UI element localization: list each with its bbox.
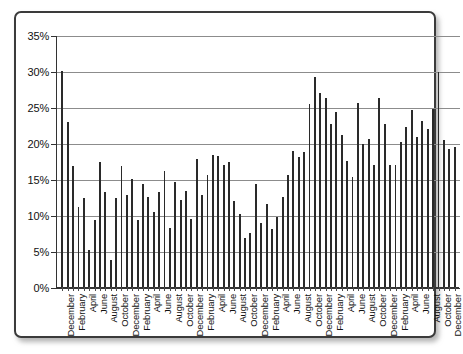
x-axis-tick bbox=[229, 287, 230, 291]
bar bbox=[298, 157, 300, 287]
x-axis-label: April bbox=[409, 294, 420, 312]
x-axis-tick bbox=[417, 287, 418, 291]
x-axis-label: December bbox=[65, 294, 76, 336]
x-axis-tick bbox=[363, 287, 364, 291]
x-axis-tick bbox=[154, 287, 155, 291]
bar bbox=[400, 142, 402, 287]
bar bbox=[190, 219, 192, 287]
x-axis-tick bbox=[396, 287, 397, 291]
x-axis-tick bbox=[315, 287, 316, 291]
x-axis-tick bbox=[433, 287, 434, 291]
x-axis-label: August bbox=[108, 294, 119, 323]
bar bbox=[405, 127, 407, 287]
bar bbox=[362, 144, 364, 287]
bar bbox=[110, 260, 112, 287]
bar bbox=[411, 110, 413, 287]
bar bbox=[389, 165, 391, 287]
bar bbox=[432, 109, 434, 287]
x-axis-label: June bbox=[98, 294, 109, 314]
x-axis-tick bbox=[342, 287, 343, 291]
x-axis-tick bbox=[240, 287, 241, 291]
x-axis-tick bbox=[175, 287, 176, 291]
x-axis-tick bbox=[207, 287, 208, 291]
x-axis-tick bbox=[304, 287, 305, 291]
x-axis-label: October bbox=[377, 294, 388, 327]
y-axis-label: 30% bbox=[28, 66, 49, 78]
x-axis-tick bbox=[170, 287, 171, 291]
x-axis-tick bbox=[444, 287, 445, 291]
x-axis-label: December bbox=[452, 294, 463, 336]
bar bbox=[94, 220, 96, 287]
x-axis-tick bbox=[186, 287, 187, 291]
x-axis-label: June bbox=[420, 294, 431, 314]
x-axis-tick bbox=[283, 287, 284, 291]
bar bbox=[164, 171, 166, 287]
x-axis-tick bbox=[89, 287, 90, 291]
bar bbox=[196, 159, 198, 287]
bar bbox=[99, 162, 101, 287]
y-axis-label: 25% bbox=[28, 102, 49, 114]
bars-group bbox=[57, 35, 460, 287]
x-axis-tick bbox=[95, 287, 96, 291]
bar bbox=[174, 182, 176, 287]
x-axis-tick bbox=[111, 287, 112, 291]
x-axis-label: April bbox=[280, 294, 291, 312]
bar bbox=[72, 166, 74, 287]
bar bbox=[325, 98, 327, 287]
bar bbox=[346, 161, 348, 287]
x-axis-tick bbox=[224, 287, 225, 291]
x-axis-tick bbox=[331, 287, 332, 291]
x-axis-tick bbox=[412, 287, 413, 291]
x-axis-tick bbox=[105, 287, 106, 291]
bar bbox=[223, 165, 225, 287]
x-axis-tick bbox=[143, 287, 144, 291]
x-axis-tick bbox=[197, 287, 198, 291]
bar bbox=[309, 104, 311, 287]
bar bbox=[373, 165, 375, 287]
x-axis-tick bbox=[116, 287, 117, 291]
x-axis-tick bbox=[84, 287, 85, 291]
y-axis-label: 20% bbox=[28, 138, 49, 150]
bar bbox=[454, 147, 456, 287]
x-axis-tick bbox=[245, 287, 246, 291]
bar bbox=[233, 201, 235, 287]
x-axis-tick bbox=[369, 287, 370, 291]
x-axis-tick bbox=[250, 287, 251, 291]
bar bbox=[276, 217, 278, 287]
bar bbox=[201, 195, 203, 287]
x-axis-tick bbox=[68, 287, 69, 291]
plot-area: 0%5%10%15%20%25%30%35% bbox=[56, 36, 459, 288]
bar bbox=[395, 165, 397, 287]
bar bbox=[292, 151, 294, 287]
bar bbox=[438, 72, 440, 287]
bar bbox=[61, 71, 63, 287]
x-axis-label: October bbox=[184, 294, 195, 327]
x-axis-label: April bbox=[87, 294, 98, 312]
bar bbox=[335, 112, 337, 287]
x-axis-tick bbox=[78, 287, 79, 291]
bar bbox=[303, 152, 305, 287]
x-axis-tick bbox=[353, 287, 354, 291]
x-axis-tick bbox=[293, 287, 294, 291]
bar bbox=[319, 93, 321, 287]
x-axis-tick bbox=[164, 287, 165, 291]
bar bbox=[271, 229, 273, 287]
x-axis-tick bbox=[132, 287, 133, 291]
bar bbox=[153, 212, 155, 287]
x-axis-label: October bbox=[248, 294, 259, 327]
x-axis-label: June bbox=[291, 294, 302, 314]
x-axis-tick bbox=[320, 287, 321, 291]
y-axis-label: 0% bbox=[34, 282, 50, 294]
x-axis-tick bbox=[288, 287, 289, 291]
x-axis-tick bbox=[202, 287, 203, 291]
bar bbox=[169, 228, 171, 287]
x-axis-label: December bbox=[259, 294, 270, 336]
bar bbox=[378, 98, 380, 287]
x-axis-label: August bbox=[173, 294, 184, 323]
bar bbox=[147, 197, 149, 287]
x-axis-label: August bbox=[237, 294, 248, 323]
x-axis-label: June bbox=[356, 294, 367, 314]
x-axis-label: June bbox=[162, 294, 173, 314]
x-axis-tick bbox=[127, 287, 128, 291]
bar bbox=[330, 124, 332, 287]
